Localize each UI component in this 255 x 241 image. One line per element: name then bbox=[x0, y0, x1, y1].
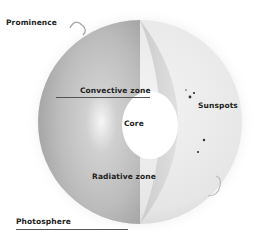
photosphere-leader-line bbox=[16, 229, 128, 230]
label-core: Core bbox=[124, 119, 144, 128]
label-prominence: Prominence bbox=[6, 18, 57, 27]
label-sunspots: Sunspots bbox=[198, 101, 238, 110]
label-convective-zone: Convective zone bbox=[80, 86, 151, 95]
sun-diagram: Prominence Convective zone Core Sunspots… bbox=[0, 0, 255, 241]
label-photosphere: Photosphere bbox=[16, 217, 71, 226]
label-radiative-zone: Radiative zone bbox=[92, 172, 156, 181]
convective-zone-leader-line bbox=[56, 97, 150, 98]
